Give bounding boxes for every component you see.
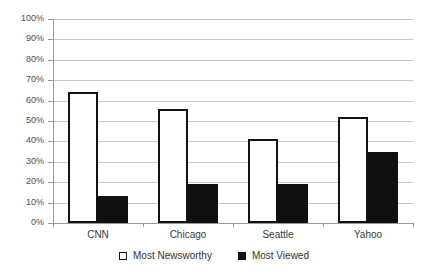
x-axis-tick bbox=[233, 223, 234, 227]
bar-chicago-most-newsworthy bbox=[158, 109, 188, 223]
y-axis-line bbox=[53, 19, 54, 224]
gridline bbox=[53, 60, 413, 61]
x-axis-category-label: Seattle bbox=[233, 229, 323, 241]
y-axis-tick bbox=[48, 203, 53, 204]
y-axis-tick-label: 70% bbox=[0, 75, 44, 84]
y-axis-tick bbox=[48, 162, 53, 163]
chart-legend: Most Newsworthy Most Viewed bbox=[0, 250, 428, 261]
bar-cnn-most-newsworthy bbox=[68, 92, 98, 223]
y-axis-tick-label: 10% bbox=[0, 198, 44, 207]
gridline bbox=[53, 101, 413, 102]
y-axis-tick-label: 20% bbox=[0, 177, 44, 186]
y-axis-tick-label: 50% bbox=[0, 116, 44, 125]
y-axis-tick-label: 30% bbox=[0, 157, 44, 166]
y-axis-tick bbox=[48, 39, 53, 40]
y-axis-tick bbox=[48, 80, 53, 81]
y-axis-tick bbox=[48, 141, 53, 142]
x-axis-tick bbox=[143, 223, 144, 227]
y-axis-tick-label: 80% bbox=[0, 55, 44, 64]
legend-label: Most Viewed bbox=[252, 250, 309, 261]
bar-cnn-most-viewed bbox=[98, 196, 128, 223]
filled-square-marker-icon bbox=[238, 252, 246, 260]
legend-item-most-newsworthy[interactable]: Most Newsworthy bbox=[119, 250, 212, 261]
plot-area bbox=[53, 19, 413, 223]
y-axis-tick-label: 60% bbox=[0, 96, 44, 105]
y-axis-tick bbox=[48, 60, 53, 61]
y-axis-tick bbox=[48, 19, 53, 20]
y-axis-tick bbox=[48, 182, 53, 183]
y-axis-tick-label: 0% bbox=[0, 218, 44, 227]
bar-yahoo-most-newsworthy bbox=[338, 117, 368, 223]
y-axis-tick bbox=[48, 101, 53, 102]
bar-chart: Most Newsworthy Most Viewed 0%10%20%30%4… bbox=[0, 0, 428, 277]
x-axis-category-label: Yahoo bbox=[323, 229, 413, 241]
x-axis-category-label: Chicago bbox=[143, 229, 233, 241]
y-axis-tick bbox=[48, 121, 53, 122]
gridline bbox=[53, 80, 413, 81]
legend-item-most-viewed[interactable]: Most Viewed bbox=[238, 250, 309, 261]
x-axis-tick bbox=[323, 223, 324, 227]
x-axis-category-label: CNN bbox=[53, 229, 143, 241]
y-axis-tick-label: 40% bbox=[0, 136, 44, 145]
bar-chicago-most-viewed bbox=[188, 184, 218, 223]
y-axis-tick-label: 90% bbox=[0, 34, 44, 43]
x-axis-tick bbox=[413, 223, 414, 227]
gridline bbox=[53, 39, 413, 40]
bar-seattle-most-viewed bbox=[278, 184, 308, 223]
legend-label: Most Newsworthy bbox=[133, 250, 212, 261]
bar-seattle-most-newsworthy bbox=[248, 139, 278, 223]
open-square-marker-icon bbox=[119, 252, 127, 260]
gridline bbox=[53, 19, 413, 20]
y-axis-tick-label: 100% bbox=[0, 14, 44, 23]
x-axis-tick bbox=[53, 223, 54, 227]
bar-yahoo-most-viewed bbox=[368, 152, 398, 223]
